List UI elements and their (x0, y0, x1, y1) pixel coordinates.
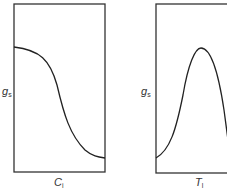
right-curve-tl (156, 48, 227, 158)
left-ylabel: gs (2, 86, 12, 98)
left-curve-ci (14, 47, 105, 158)
left-plot-frame (14, 4, 105, 172)
figure (0, 0, 227, 189)
right-ylabel: gs (141, 86, 151, 98)
right-xlabel: Tl (195, 177, 203, 189)
left-xlabel: Ci (54, 177, 64, 189)
